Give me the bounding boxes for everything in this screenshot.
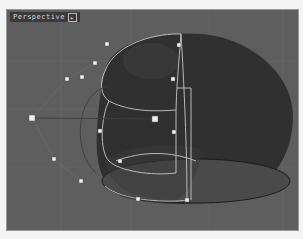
dropdown-arrow-icon[interactable]: ▸ [68,13,77,22]
scene-canvas[interactable] [7,10,299,231]
perspective-viewport[interactable]: Perspective ▸ [6,9,299,231]
window-frame: Perspective ▸ [0,0,303,239]
viewport-title[interactable]: Perspective ▸ [10,12,80,22]
viewport-label: Perspective [13,12,65,22]
control-polygon [32,63,95,181]
